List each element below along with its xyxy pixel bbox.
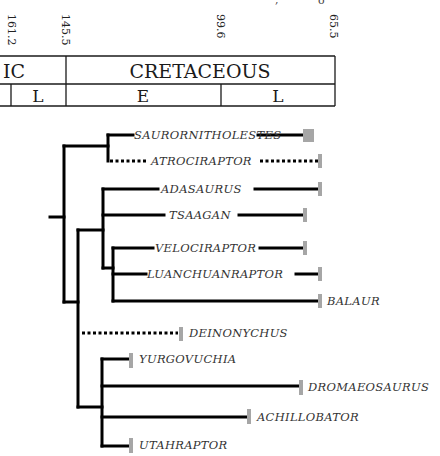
taxon-label-balaur: BALAUR (326, 294, 380, 308)
range-bar-tsaagan (303, 208, 307, 222)
tick-label: 161.2 (5, 14, 18, 46)
range-bar-adasaurus (318, 182, 322, 196)
tick-label: 145.5 (59, 14, 72, 46)
taxon-label-velociraptor: VELOCIRAPTOR (155, 241, 256, 255)
taxon-label-yurgovuchia: YURGOVUCHIA (139, 352, 236, 366)
geologic-timescale-table: IC CRETACEOUS L E L (0, 56, 335, 106)
taxon-label-atrociraptor: ATROCIRAPTOR (150, 154, 252, 168)
epoch-label-late-jurassic: L (32, 86, 43, 106)
taxon-label-utahraptor: UTAHRAPTOR (139, 438, 228, 452)
range-bar-balaur (318, 294, 322, 308)
taxon-labels: SAURORNITHOLESTES ATROCIRAPTOR ADASAURUS… (134, 128, 429, 452)
range-bar-saurornitholestes (303, 129, 314, 142)
range-bar-deinonychus (179, 327, 183, 341)
taxon-label-dromaeosaurus: DROMAEOSAURUS (307, 380, 429, 394)
dromaeosaurid-time-calibrated-cladogram: , o 161.2 145.5 99.6 65.5 IC CRETACEOUS … (0, 0, 440, 456)
epoch-label-early-cretaceous: E (137, 86, 149, 106)
time-axis-ticks: 161.2 145.5 99.6 65.5 (5, 14, 340, 46)
range-bar-achillobator (247, 409, 251, 424)
clipped-top-fragment: o (318, 0, 325, 7)
taxon-label-tsaagan: TSAAGAN (169, 208, 231, 222)
taxon-label-adasaurus: ADASAURUS (160, 182, 242, 196)
period-label-jurassic-fragment: IC (3, 60, 25, 82)
range-bar-utahraptor (129, 438, 133, 453)
range-bar-luanchuanraptor (318, 267, 322, 281)
stratigraphic-range-bars (129, 129, 322, 453)
range-bar-velociraptor (303, 241, 307, 255)
tick-label: 65.5 (327, 14, 340, 39)
taxon-label-luanchuanraptor: LUANCHUANRAPTOR (146, 267, 283, 281)
taxon-label-achillobator: ACHILLOBATOR (256, 410, 359, 424)
range-bar-dromaeosaurus (299, 380, 303, 395)
tick-label: 99.6 (214, 14, 227, 39)
taxon-label-saurornitholestes: SAURORNITHOLESTES (134, 128, 281, 142)
range-bar-atrociraptor (318, 154, 322, 168)
clipped-top-fragment: , (275, 0, 279, 6)
range-bar-yurgovuchia (129, 353, 133, 368)
period-label-cretaceous: CRETACEOUS (129, 60, 270, 82)
epoch-label-late-cretaceous: L (272, 86, 283, 106)
taxon-label-deinonychus: DEINONYCHUS (188, 326, 288, 340)
